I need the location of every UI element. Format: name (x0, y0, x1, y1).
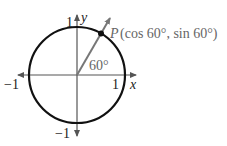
y-pos-label: 1 (66, 15, 73, 30)
x-axis-label: x (129, 77, 137, 92)
x-neg-label: −1 (4, 77, 19, 92)
x-pos-label: 1 (112, 77, 119, 92)
angle-label: 60° (89, 58, 109, 73)
y-axis-label: y (79, 10, 88, 25)
point-p (98, 30, 104, 36)
y-neg-label: −1 (55, 126, 70, 141)
point-p-label: P (109, 26, 119, 41)
point-coords-label: (cos 60°, sin 60°) (120, 26, 218, 42)
unit-circle-diagram: 1 y P (cos 60°, sin 60°) 60° −1 1 x −1 (0, 0, 227, 146)
